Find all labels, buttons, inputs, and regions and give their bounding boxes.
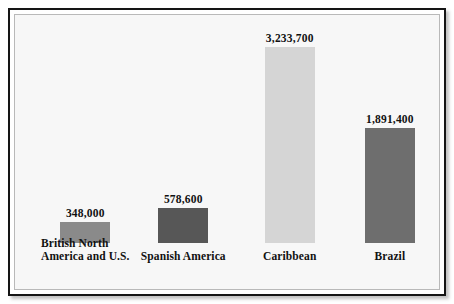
chart-inner-frame: 348,000British NorthAmerica and U.S.578,… — [14, 14, 440, 290]
bar-category-label: Caribbean — [263, 250, 316, 263]
bar[interactable] — [265, 47, 315, 243]
bar-category-label: Brazil — [375, 250, 406, 263]
bar[interactable] — [158, 208, 208, 243]
bar-group: 1,891,400 — [315, 88, 454, 243]
bar-value-label: 1,891,400 — [366, 113, 414, 125]
bar-chart-plot-area: 348,000British NorthAmerica and U.S.578,… — [15, 15, 439, 289]
bar-value-label: 3,233,700 — [266, 32, 314, 44]
bar[interactable] — [365, 128, 415, 243]
bar-value-label: 578,600 — [164, 193, 203, 205]
bar-category-label: Spanish America — [141, 250, 226, 263]
bar-value-label: 348,000 — [66, 207, 105, 219]
chart-figure: 348,000British NorthAmerica and U.S.578,… — [8, 8, 446, 296]
